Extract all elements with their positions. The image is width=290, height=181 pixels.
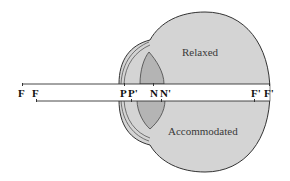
marker-n-prime: N' — [160, 87, 171, 99]
marker-f-prime-relaxed: F' — [264, 87, 274, 99]
marker-p-prime: P' — [128, 87, 138, 99]
axis-band — [0, 84, 290, 101]
marker-f-prime-accommodated: F' — [251, 87, 261, 99]
marker-p: P — [120, 87, 127, 99]
eye-diagram: Relaxed Accommodated F F P P' N N' F' F' — [0, 0, 290, 181]
accommodated-label: Accommodated — [168, 125, 238, 137]
marker-n: N — [150, 87, 158, 99]
marker-f-accommodated: F — [18, 87, 25, 99]
relaxed-label: Relaxed — [182, 46, 219, 58]
marker-f-relaxed: F — [32, 87, 39, 99]
